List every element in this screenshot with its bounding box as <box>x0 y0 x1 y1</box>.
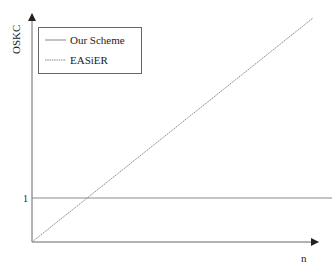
legend: Our Scheme EASiER <box>39 28 142 74</box>
chart: OSKC n 1 Our Scheme EASiER <box>0 0 332 277</box>
x-axis-label: n <box>301 252 307 264</box>
legend-label-our-scheme: Our Scheme <box>70 34 125 46</box>
legend-label-easier: EASiER <box>70 54 109 66</box>
y-axis-label: OSKC <box>10 25 22 54</box>
y-tick-label-1: 1 <box>23 193 28 204</box>
